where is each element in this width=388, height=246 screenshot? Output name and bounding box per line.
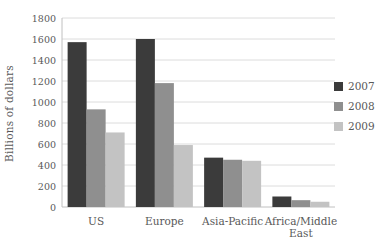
y-tick-label: 600 — [38, 139, 56, 150]
bar-2008-europe — [155, 83, 174, 207]
bar-2007-asia-pacific — [204, 158, 223, 207]
legend-label: 2009 — [348, 120, 375, 132]
legend-swatch-icon — [334, 82, 343, 91]
legend-label: 2007 — [348, 80, 375, 92]
y-tick-label: 200 — [38, 181, 56, 192]
legend: 200720082009 — [334, 76, 375, 136]
y-tick-label: 400 — [38, 160, 56, 171]
bar-2008-africa-middle-east — [291, 200, 310, 207]
legend-item-2009: 2009 — [334, 116, 375, 136]
plot-area: 020040060080010001200140016001800USEurop… — [0, 0, 388, 246]
y-tick-label: 0 — [50, 202, 56, 213]
bar-2008-us — [87, 109, 106, 207]
x-category-label: Europe — [145, 215, 184, 227]
legend-swatch-icon — [334, 102, 343, 111]
y-tick-label: 1800 — [32, 13, 56, 24]
bar-2009-africa-middle-east — [310, 202, 329, 207]
y-tick-label: 1600 — [32, 34, 56, 45]
legend-swatch-icon — [334, 122, 343, 131]
bar-2009-europe — [174, 145, 193, 207]
legend-item-2008: 2008 — [334, 96, 375, 116]
y-tick-label: 1000 — [32, 97, 56, 108]
y-tick-label: 1400 — [32, 55, 56, 66]
x-category-label: US — [88, 215, 104, 227]
bar-2007-africa-middle-east — [272, 197, 291, 208]
y-tick-label: 1200 — [32, 76, 56, 87]
x-category-label: Africa/MiddleEast — [264, 215, 337, 239]
bar-2007-us — [68, 42, 87, 207]
bar-2008-asia-pacific — [223, 160, 242, 207]
bar-chart: Billions of dollars 02004006008001000120… — [0, 0, 388, 246]
bar-2009-us — [106, 132, 125, 207]
x-category-label: Asia-Pacific — [201, 215, 263, 227]
y-axis-title: Billions of dollars — [2, 62, 16, 166]
legend-label: 2008 — [348, 100, 375, 112]
y-tick-label: 800 — [38, 118, 56, 129]
bar-2007-europe — [136, 39, 155, 207]
legend-item-2007: 2007 — [334, 76, 375, 96]
bar-2009-asia-pacific — [242, 161, 261, 207]
